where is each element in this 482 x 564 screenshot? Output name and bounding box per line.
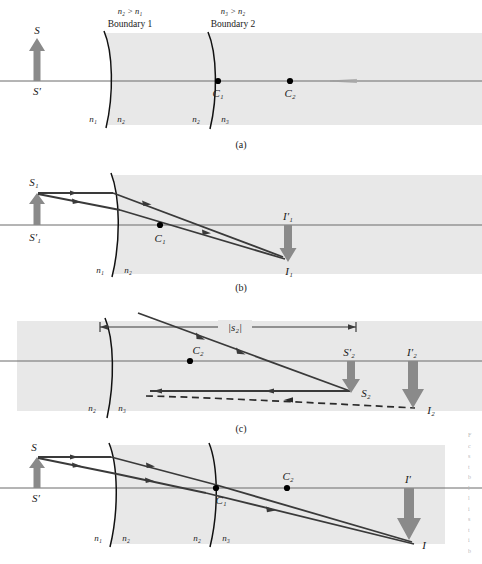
panel-c: |s₂| C₂ S′₂ S₂ I′₂ I₂ n₂ n₃ (c) [0, 296, 482, 436]
image-base-label-b: I′₁ [282, 210, 293, 222]
object-tip-label-c: S₂ [361, 387, 371, 399]
image-tip-label-b: I₁ [284, 265, 293, 277]
panel-c-svg: |s₂| C₂ S′₂ S₂ I′₂ I₂ n₂ n₃ (c) [0, 296, 482, 436]
page-margin-text-fragment: F c s t b l l i s t i b [468, 430, 482, 556]
margin-fragment-8: s [468, 516, 470, 522]
boundary-2-label-a: Boundary 2 [211, 19, 256, 29]
object-tip-label-b: S₁ [29, 176, 39, 188]
n3-label-d: n₃ [222, 533, 230, 543]
center-2-label-d: C₂ [282, 470, 293, 482]
center-1-label-a: C₁ [212, 87, 223, 99]
object-base-label-b: S′₁ [29, 231, 41, 243]
margin-fragment-10: i [468, 537, 469, 543]
panel-a-svg: n₂ > n₁ Boundary 1 n₃ > n₂ Boundary 2 S … [0, 0, 482, 156]
panel-d-svg: S S′ C₁ C₂ I′ I n₁ n₂ n₂ n₃ [0, 436, 482, 564]
inequality-2-label-a: n₃ > n₂ [221, 6, 245, 16]
margin-fragment-6: l [468, 495, 469, 501]
ray-1-incident-arrow-b [70, 190, 77, 195]
boundary-1-label-a: Boundary 1 [108, 19, 153, 29]
center-2-label-a: C₂ [284, 87, 295, 99]
distance-label-s2-c: |s₂| [228, 321, 242, 333]
image-base-label-c: I′₂ [406, 346, 417, 358]
center-dot-c2-c [187, 358, 193, 364]
n2-left-label-a: n₂ [117, 114, 125, 124]
center-dot-c2-a [287, 78, 293, 84]
object-arrow-a [29, 38, 45, 81]
panel-a: n₂ > n₁ Boundary 1 n₃ > n₂ Boundary 2 S … [0, 0, 482, 156]
medium-shading-a [105, 33, 482, 125]
object-tip-label-d: S [31, 441, 37, 453]
image-base-label-d: I′ [404, 473, 412, 485]
object-arrow-d [29, 457, 45, 488]
margin-fragment-3: t [468, 464, 469, 470]
margin-fragment-7: i [468, 506, 469, 512]
panel-b: S₁ S′₁ C₁ I′₁ I₁ n₁ n₂ (b) [0, 156, 482, 296]
image-tip-label-c: I₂ [426, 404, 435, 416]
center-dot-c1-d [213, 485, 219, 491]
n3-label-a: n₃ [221, 114, 229, 124]
object-arrow-b [29, 193, 45, 225]
margin-fragment-2: s [468, 453, 470, 459]
margin-fragment-1: c [468, 443, 470, 449]
n2-label-b: n₂ [124, 265, 132, 275]
panel-caption-a: (a) [235, 139, 246, 151]
panel-b-svg: S₁ S′₁ C₁ I′₁ I₁ n₁ n₂ (b) [0, 156, 482, 296]
margin-fragment-5: l [468, 485, 469, 491]
panel-caption-b: (b) [235, 282, 247, 294]
center-dot-c2-d [284, 485, 290, 491]
n2-right-label-d: n₂ [193, 533, 201, 543]
object-base-label-a: S′ [33, 85, 42, 97]
center-2-label-c: C₂ [192, 344, 203, 356]
object-base-label-c: S′₂ [343, 346, 355, 358]
margin-fragment-4: b [468, 474, 471, 480]
object-tip-label-a: S [34, 24, 40, 36]
center-dot-c1-a [215, 78, 221, 84]
ray-1-seg1-arrow-d [70, 454, 78, 459]
n2-label-c: n₂ [88, 403, 96, 413]
n1-label-a: n₁ [89, 114, 97, 124]
center-1-label-d: C₁ [215, 494, 226, 506]
center-1-label-b: C₁ [154, 232, 165, 244]
n1-label-d: n₁ [94, 533, 102, 543]
margin-fragment-11: b [468, 548, 471, 554]
margin-fragment-0: F [468, 432, 471, 438]
inequality-1-label-a: n₂ > n₁ [118, 6, 142, 16]
n1-label-b: n₁ [96, 265, 104, 275]
n3-label-c: n₃ [118, 403, 126, 413]
ray-2-incident-arrow-b [72, 198, 81, 204]
margin-fragment-9: t [468, 527, 469, 533]
panel-caption-c: (c) [235, 423, 246, 435]
object-base-label-d: S′ [32, 492, 41, 504]
panel-d: S S′ C₁ C₂ I′ I n₁ n₂ n₂ n₃ [0, 436, 482, 564]
n2-right-label-a: n₂ [192, 114, 200, 124]
medium-shading-d [110, 445, 445, 544]
n2-left-label-d: n₂ [122, 533, 130, 543]
center-dot-c1-b [157, 222, 163, 228]
